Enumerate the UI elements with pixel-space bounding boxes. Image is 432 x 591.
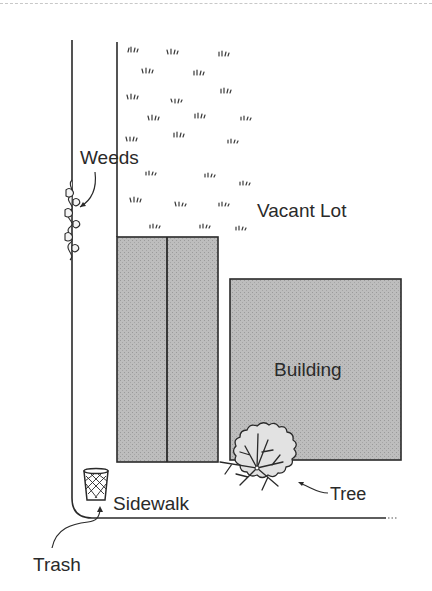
site-plan-drawing xyxy=(0,0,432,591)
trash-basket-icon xyxy=(84,469,108,501)
sidewalk-label: Sidewalk xyxy=(113,494,189,513)
vacant-lot-label: Vacant Lot xyxy=(257,201,346,220)
trash-pointer-line xyxy=(52,510,100,548)
grass-tufts xyxy=(126,47,251,230)
weeds-label: Weeds xyxy=(80,148,139,167)
trash-label: Trash xyxy=(33,555,81,574)
tree-label: Tree xyxy=(330,485,366,503)
building-label: Building xyxy=(274,360,342,379)
weeds-pointer-arrow xyxy=(80,172,95,207)
trash-arrowhead xyxy=(97,506,103,512)
adjacent-building xyxy=(117,237,218,462)
tree-pointer-line xyxy=(302,484,328,493)
